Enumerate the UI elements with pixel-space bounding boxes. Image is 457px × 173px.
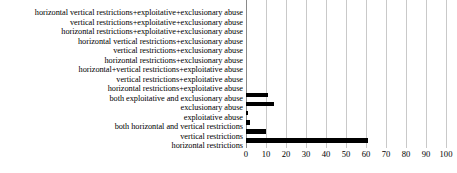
y-axis-tick-label: horizontal vertical restrictions+exploit… xyxy=(0,8,243,18)
plot-region xyxy=(246,0,457,148)
x-axis: 0102030405060708090100 xyxy=(246,148,457,173)
bar-row xyxy=(246,136,457,145)
bar-row xyxy=(246,45,457,54)
x-axis-tick-label: 0 xyxy=(244,149,248,159)
y-axis-tick-label: vertical restrictions xyxy=(0,132,243,142)
bar xyxy=(246,102,274,107)
chart-area: horizontal vertical restrictions+exploit… xyxy=(0,0,457,173)
y-axis-tick-label: horizontal restrictions xyxy=(0,141,243,151)
bar-row xyxy=(246,72,457,81)
bar-row xyxy=(246,127,457,136)
bar-row xyxy=(246,26,457,35)
y-axis-tick-label: exclusionary abuse xyxy=(0,103,243,113)
bar-row xyxy=(246,17,457,26)
y-axis-tick-label: both exploitative and exclusionary abuse xyxy=(0,94,243,104)
bar-row xyxy=(246,99,457,108)
y-axis-tick-label: horizontal vertical restrictions+exclusi… xyxy=(0,37,243,47)
bar-row xyxy=(246,8,457,17)
x-axis-tick-label: 30 xyxy=(302,149,311,159)
bar xyxy=(246,111,248,116)
bar-row xyxy=(246,118,457,127)
x-axis-tick-label: 90 xyxy=(422,149,431,159)
bar-chart: horizontal vertical restrictions+exploit… xyxy=(0,0,457,173)
bar xyxy=(246,120,250,125)
bar xyxy=(246,93,268,98)
y-axis-tick-label: both horizontal and vertical restriction… xyxy=(0,122,243,132)
x-axis-tick-label: 60 xyxy=(362,149,371,159)
bar-row xyxy=(246,81,457,90)
y-axis-tick-label: horizontal restrictions+exploitative+exc… xyxy=(0,27,243,37)
x-axis-tick-label: 10 xyxy=(262,149,271,159)
bar-row xyxy=(246,90,457,99)
bar-row xyxy=(246,35,457,44)
bar xyxy=(246,138,368,143)
x-axis-tick-label: 80 xyxy=(402,149,411,159)
x-axis-tick-label: 50 xyxy=(342,149,351,159)
plot-wrapper: horizontal vertical restrictions+exploit… xyxy=(0,0,457,148)
y-axis-tick-label: exploitative abuse xyxy=(0,113,243,123)
y-axis-tick-label: vertical restrictions+exploitative+exclu… xyxy=(0,18,243,28)
x-axis-tick-label: 100 xyxy=(440,149,453,159)
x-axis-tick-label: 40 xyxy=(322,149,331,159)
y-axis-tick-label: horizontal restrictions+exclusionary abu… xyxy=(0,56,243,66)
x-axis-tick-label: 70 xyxy=(382,149,391,159)
bar-row xyxy=(246,63,457,72)
bar-series xyxy=(246,8,457,145)
bar-row xyxy=(246,54,457,63)
bar-row xyxy=(246,109,457,118)
y-axis-tick-label: vertical restrictions+exploitative abuse xyxy=(0,75,243,85)
y-axis-category-labels: horizontal vertical restrictions+exploit… xyxy=(0,0,246,148)
y-axis-tick-label: horizontal+vertical restrictions+exploit… xyxy=(0,65,243,75)
bar xyxy=(246,129,266,134)
x-axis-tick-label: 20 xyxy=(282,149,291,159)
y-axis-tick-label: vertical restrictions+exclusionary abuse xyxy=(0,46,243,56)
y-axis-tick-label: horizontal restrictions+exploitative abu… xyxy=(0,84,243,94)
